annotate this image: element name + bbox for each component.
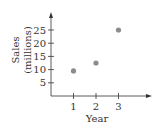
x-tick-label: 3 — [115, 101, 121, 112]
axes — [49, 12, 152, 98]
y-tick-label: 15 — [33, 51, 46, 62]
y-axis-label: Sales (millions) — [10, 26, 33, 74]
data-point — [116, 27, 121, 32]
x-tick-label: 1 — [70, 101, 76, 112]
x-tick-label: 2 — [93, 101, 99, 112]
y-tick-label: 10 — [33, 64, 46, 75]
data-point — [71, 68, 76, 73]
data-point — [93, 60, 98, 65]
svg-text:(millions): (millions) — [22, 26, 33, 74]
data-points — [71, 27, 121, 73]
y-tick-label: 25 — [33, 25, 46, 36]
scatter-chart: 510152025 123 Year Sales (millions) — [0, 0, 158, 129]
x-axis-arrow-icon — [146, 94, 152, 98]
y-tick-label: 5 — [40, 77, 46, 88]
x-axis-label: Year — [85, 113, 109, 124]
svg-text:Sales: Sales — [10, 36, 21, 63]
y-tick-label: 20 — [33, 38, 46, 49]
y-axis-arrow-icon — [49, 12, 53, 18]
